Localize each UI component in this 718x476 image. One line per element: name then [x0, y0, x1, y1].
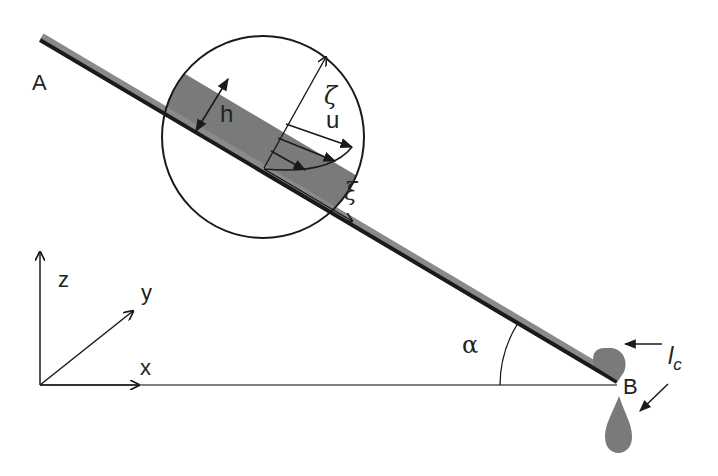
- label-velocity-u: u: [326, 106, 339, 133]
- label-point-b: B: [623, 374, 638, 399]
- label-axis-z: z: [58, 267, 69, 292]
- coordinate-axes: [40, 252, 139, 385]
- diagram-canvas: A h ζ u ξ z y x α B lc: [0, 0, 718, 476]
- label-axis-x: x: [140, 355, 151, 380]
- label-contact-length: lc: [668, 342, 682, 374]
- falling-droplet: [605, 396, 632, 453]
- label-point-a: A: [32, 70, 47, 95]
- label-film-thickness: h: [220, 100, 233, 127]
- contact-arrow-diagonal: [640, 384, 668, 411]
- label-xi: ξ: [344, 178, 359, 206]
- label-angle-alpha: α: [462, 331, 478, 359]
- label-axis-y: y: [141, 280, 152, 305]
- angle-arc: [500, 323, 518, 385]
- y-axis-arrow: [40, 311, 133, 385]
